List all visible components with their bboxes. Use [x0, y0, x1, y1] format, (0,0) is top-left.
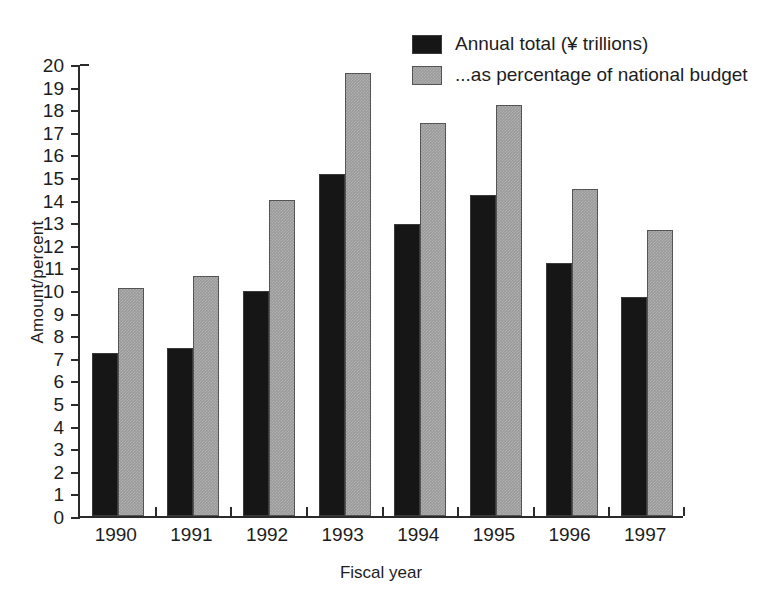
bar-annual-total-1995 — [470, 195, 496, 516]
y-axis-tick — [71, 494, 80, 496]
legend-item: ...as percentage of national budget — [412, 61, 748, 89]
legend-swatch-annual-total — [412, 35, 442, 54]
y-axis-tick-label: 11 — [20, 259, 64, 278]
y-axis-tick — [71, 133, 80, 135]
y-axis-tick-label: 9 — [20, 305, 64, 324]
y-axis-tick — [71, 359, 80, 361]
y-axis-tick — [71, 155, 80, 157]
axis-corner-top — [80, 64, 89, 66]
y-axis-tick-label: 2 — [20, 463, 64, 482]
y-axis-tick-label: 12 — [20, 237, 64, 256]
y-axis-tick-label: 19 — [20, 79, 64, 98]
axis-corner-right — [683, 507, 685, 516]
x-axis-label-1995: 1995 — [456, 524, 532, 546]
bar-percentage-of-budget-1991 — [193, 276, 219, 516]
bar-annual-total-1996 — [546, 263, 572, 516]
legend-label: Annual total (¥ trillions) — [455, 33, 648, 55]
y-axis-tick-label: 20 — [20, 56, 64, 75]
x-axis-tick — [306, 507, 308, 518]
y-axis-tick-label: 16 — [20, 146, 64, 165]
y-axis-tick — [71, 404, 80, 406]
y-axis-tick — [71, 268, 80, 270]
y-axis-tick — [71, 65, 80, 67]
y-axis-tick — [71, 110, 80, 112]
x-axis-label-1992: 1992 — [229, 524, 305, 546]
x-axis-tick — [155, 507, 157, 518]
plot-area — [78, 66, 683, 518]
bar-percentage-of-budget-1993 — [345, 73, 371, 516]
y-axis-tick — [71, 427, 80, 429]
bar-percentage-of-budget-1990 — [118, 288, 144, 516]
bar-percentage-of-budget-1994 — [420, 123, 446, 516]
x-axis-tick — [230, 507, 232, 518]
bar-percentage-of-budget-1997 — [647, 230, 673, 516]
y-axis-tick-label: 1 — [20, 485, 64, 504]
y-axis-tick-label: 8 — [20, 327, 64, 346]
y-axis-tick — [71, 178, 80, 180]
bar-annual-total-1993 — [319, 174, 345, 516]
bar-annual-total-1994 — [394, 224, 420, 516]
bar-percentage-of-budget-1995 — [496, 105, 522, 516]
x-axis-tick — [382, 507, 384, 518]
y-axis-tick — [71, 223, 80, 225]
x-axis-label-1996: 1996 — [532, 524, 608, 546]
legend-item: Annual total (¥ trillions) — [412, 30, 748, 58]
y-axis-tick — [71, 381, 80, 383]
chart-legend: Annual total (¥ trillions)...as percenta… — [412, 30, 748, 92]
y-axis-tick-label: 6 — [20, 372, 64, 391]
x-axis-tick — [457, 507, 459, 518]
bar-annual-total-1997 — [621, 297, 647, 516]
y-axis-tick — [71, 88, 80, 90]
y-axis-tick — [71, 314, 80, 316]
y-axis-tick — [71, 246, 80, 248]
y-axis-tick-label: 4 — [20, 418, 64, 437]
y-axis-tick-label: 14 — [20, 192, 64, 211]
bar-chart: Amount/percent 0123456789101112131415161… — [0, 0, 779, 606]
y-axis-tick-label: 3 — [20, 440, 64, 459]
y-axis-tick-label: 18 — [20, 101, 64, 120]
y-axis-tick — [71, 336, 80, 338]
legend-swatch-percentage-of-budget — [412, 66, 442, 85]
y-axis-tick — [71, 449, 80, 451]
y-axis-tick-label: 7 — [20, 350, 64, 369]
y-axis-tick — [71, 291, 80, 293]
x-axis-label-1990: 1990 — [78, 524, 154, 546]
x-axis-label-1997: 1997 — [607, 524, 683, 546]
x-axis-title: Fiscal year — [78, 563, 684, 583]
y-axis-tick — [71, 472, 80, 474]
y-axis-tick-label: 5 — [20, 395, 64, 414]
x-axis-label-1991: 1991 — [154, 524, 230, 546]
legend-label: ...as percentage of national budget — [455, 64, 748, 86]
y-axis-tick — [71, 201, 80, 203]
y-axis-tick-label: 0 — [20, 508, 64, 527]
x-axis-label-1994: 1994 — [381, 524, 457, 546]
bar-percentage-of-budget-1992 — [269, 200, 295, 516]
bar-annual-total-1990 — [92, 353, 118, 516]
bar-percentage-of-budget-1996 — [572, 189, 598, 516]
y-axis-tick-label: 10 — [20, 282, 64, 301]
bar-annual-total-1992 — [243, 291, 269, 516]
y-axis-tick-label: 13 — [20, 214, 64, 233]
bar-annual-total-1991 — [167, 348, 193, 516]
x-axis-tick — [608, 507, 610, 518]
y-axis-tick-label: 15 — [20, 169, 64, 188]
y-axis-tick-label: 17 — [20, 124, 64, 143]
x-axis-label-1993: 1993 — [305, 524, 381, 546]
x-axis-tick — [533, 507, 535, 518]
y-axis-tick — [71, 517, 80, 519]
